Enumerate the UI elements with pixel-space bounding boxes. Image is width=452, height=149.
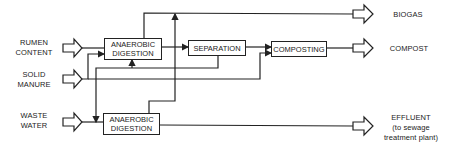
input-waste-water: WASTE WATER (14, 111, 54, 131)
input-rumen-content: RUMEN CONTENT (14, 38, 54, 58)
input-solid-manure: SOLID MANURE (14, 70, 54, 90)
rumen-input-arrow-icon (63, 39, 82, 57)
label-line: WATER (14, 121, 54, 131)
label-line: ANAEROBIC (109, 115, 153, 124)
label: SEPARATION (193, 44, 240, 53)
process-anaerobic-digestion-bottom: ANAEROBIC DIGESTION (103, 113, 160, 135)
label-line: MANURE (14, 80, 54, 90)
label-line: ANAEROBIC (111, 40, 155, 49)
label: COMPOST (390, 44, 429, 53)
manure-input-arrow-icon (63, 70, 82, 88)
process-composting: COMPOSTING (271, 41, 327, 57)
output-biogas: BIOGAS (388, 10, 428, 20)
label-line: RUMEN (14, 38, 54, 48)
effluent-output-arrow-icon (353, 117, 373, 135)
water-input-arrow-icon (63, 113, 82, 131)
label-line: (to sewage (380, 123, 442, 133)
biogas-output-arrow-icon (353, 5, 373, 23)
output-effluent: EFFLUENT (to sewage treatment plant) (380, 113, 442, 143)
label-line: treatment plant) (380, 133, 442, 143)
process-flow-diagram: RUMEN CONTENT SOLID MANURE WASTE WATER A… (0, 0, 452, 149)
label: BIOGAS (393, 10, 422, 19)
label-line: WASTE (14, 111, 54, 121)
label-line: CONTENT (14, 48, 54, 58)
label-line: EFFLUENT (380, 113, 442, 123)
label: COMPOSTING (273, 45, 324, 54)
output-compost: COMPOST (386, 44, 432, 54)
compost-output-arrow-icon (353, 39, 373, 57)
label-line: SOLID (14, 70, 54, 80)
label-line: DIGESTION (112, 49, 153, 58)
process-separation: SEPARATION (188, 40, 246, 56)
label-line: DIGESTION (111, 124, 152, 133)
process-anaerobic-digestion-top: ANAEROBIC DIGESTION (104, 38, 162, 60)
